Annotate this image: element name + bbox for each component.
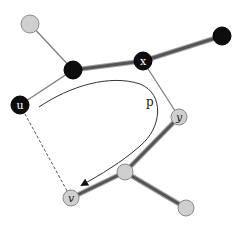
node-y: y [171,109,187,125]
edge-u-v [20,105,71,198]
node-u: u [11,96,29,114]
node-circle [213,27,231,45]
node-n_mid [117,164,133,180]
node-n_top_right [213,27,231,45]
edge-u-n_a [20,70,73,105]
node-x: x [134,52,152,70]
node-n_bottom_right [178,200,194,216]
node-v: v [63,190,79,206]
edge-n_a-x [73,61,143,70]
node-n_top_left [21,15,39,33]
node-label-v: v [68,192,75,205]
path-p-curve [39,80,158,185]
node-label-x: x [140,55,147,68]
node-circle [64,61,82,79]
edge-n_mid-n_bottom_right [125,172,186,208]
node-n_a [64,61,82,79]
graph-diagram: p uxyv [0,0,245,226]
node-circle [178,200,194,216]
node-circle [117,164,133,180]
node-label-u: u [16,99,23,112]
edge-x-n_top_right [143,36,222,61]
node-label-y: y [175,111,183,124]
node-circle [21,15,39,33]
edges-layer [20,24,222,208]
path-p-label: p [146,95,154,109]
edge-y-n_mid [125,117,179,172]
